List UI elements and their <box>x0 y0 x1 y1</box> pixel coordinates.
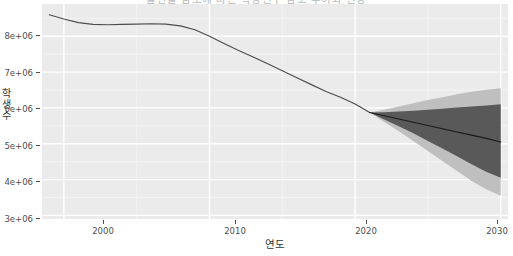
y-tick-mark-5e6 <box>36 145 40 146</box>
x-tick-label-2020: 2020 <box>355 226 377 236</box>
x-tick-label-2010: 2010 <box>224 226 246 236</box>
y-tick-label-6e6: 6e+06 <box>0 104 33 114</box>
y-tick-label-7e6: 7e+06 <box>0 68 33 78</box>
x-tick-mark-2000 <box>103 220 104 224</box>
y-tick-mark-6e6 <box>36 108 40 109</box>
x-tick-mark-2030 <box>497 220 498 224</box>
y-tick-label-8e6: 8e+06 <box>0 31 33 41</box>
y-tick-mark-4e6 <box>36 181 40 182</box>
confidence-band-80 <box>370 104 501 177</box>
y-tick-label-5e6: 5e+06 <box>0 141 33 151</box>
x-axis-title: 연도 <box>42 236 508 251</box>
y-tick-mark-8e6 <box>36 35 40 36</box>
y-tick-mark-7e6 <box>36 72 40 73</box>
x-tick-label-2000: 2000 <box>92 226 114 236</box>
y-tick-mark-3e6 <box>36 218 40 219</box>
y-tick-label-3e6: 3e+06 <box>0 214 33 224</box>
x-tick-label-2030: 2030 <box>486 226 508 236</box>
plot-area <box>42 4 508 219</box>
plot-panel <box>42 4 508 219</box>
y-tick-label-4e6: 4e+06 <box>0 177 33 187</box>
x-tick-mark-2010 <box>235 220 236 224</box>
forecast-fan-chart: 출산율 감소에 따른 학령인구 감소 추이와 전망 학생수 8e+06 7e+0… <box>0 0 513 256</box>
x-tick-mark-2020 <box>366 220 367 224</box>
